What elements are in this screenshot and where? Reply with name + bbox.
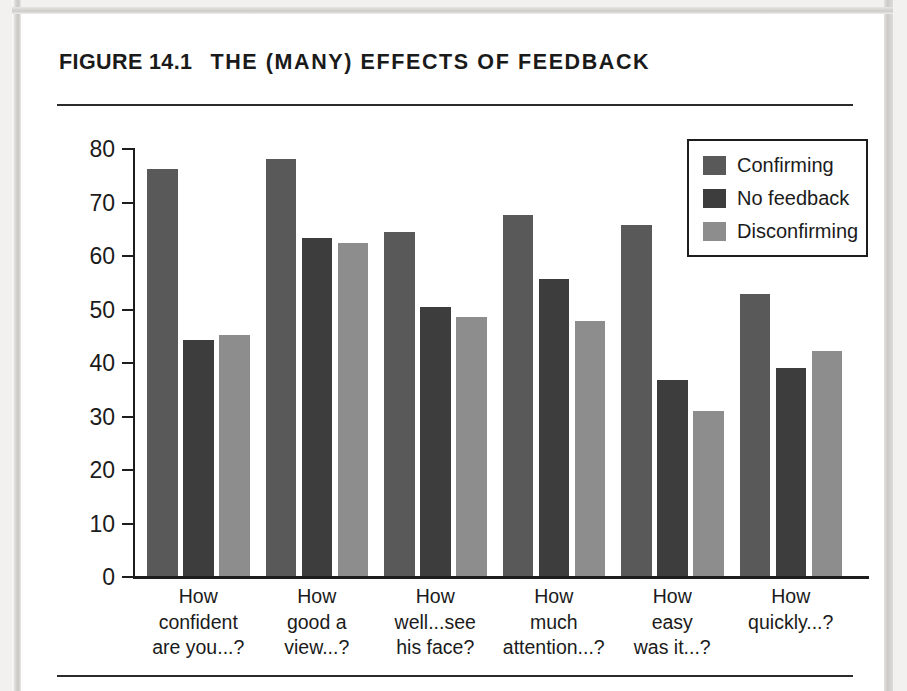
figure-page: FIGURE 14.1THE (MANY) EFFECTS OF FEEDBAC… — [0, 0, 907, 691]
bar[interactable] — [693, 411, 724, 576]
bar-group — [503, 148, 606, 576]
y-tick: 70 — [122, 202, 133, 204]
y-tick: 20 — [122, 469, 133, 471]
y-tick-label: 20 — [89, 457, 115, 484]
bar[interactable] — [503, 215, 534, 576]
y-tick: 60 — [122, 255, 133, 257]
y-tick: 80 — [122, 148, 133, 150]
x-axis-line — [133, 576, 869, 579]
page-frame-left-edge — [12, 0, 21, 691]
y-tick-label: 40 — [89, 350, 115, 377]
legend-item[interactable]: Confirming — [703, 149, 866, 182]
page-frame-right-edge — [884, 0, 893, 691]
bar[interactable] — [657, 380, 688, 576]
title-divider-top — [57, 104, 853, 106]
y-tick: 40 — [122, 362, 133, 364]
bar[interactable] — [539, 279, 570, 576]
bar[interactable] — [812, 351, 843, 576]
bar[interactable] — [420, 307, 451, 576]
bar[interactable] — [740, 294, 771, 576]
y-tick: 10 — [122, 523, 133, 525]
y-tick-label: 60 — [89, 243, 115, 270]
x-axis-label-line: quickly...? — [711, 610, 871, 636]
figure-sheet: FIGURE 14.1THE (MANY) EFFECTS OF FEEDBAC… — [21, 14, 884, 691]
legend-swatch-icon — [703, 222, 726, 241]
bar[interactable] — [384, 232, 415, 576]
y-tick-label: 80 — [89, 136, 115, 163]
bar[interactable] — [147, 169, 178, 576]
bar-group — [384, 148, 487, 576]
x-axis-label: Howquickly...? — [711, 584, 871, 635]
y-tick-label: 0 — [102, 564, 115, 591]
chart-legend: ConfirmingNo feedbackDisconfirming — [687, 139, 868, 257]
legend-label: No feedback — [737, 187, 849, 210]
y-axis-line — [133, 148, 135, 578]
bar[interactable] — [456, 317, 487, 576]
bar[interactable] — [776, 368, 807, 576]
y-tick-label: 10 — [89, 510, 115, 537]
bar-group — [266, 148, 369, 576]
bar[interactable] — [183, 340, 214, 576]
bar[interactable] — [338, 243, 369, 576]
y-tick: 0 — [122, 576, 133, 578]
bar-group — [147, 148, 250, 576]
bar[interactable] — [266, 159, 297, 576]
bar[interactable] — [575, 321, 606, 576]
x-axis-label-line: was it...? — [592, 635, 752, 661]
y-tick-label: 30 — [89, 403, 115, 430]
y-tick: 50 — [122, 309, 133, 311]
figure-number: FIGURE 14.1 — [59, 50, 192, 74]
page-frame-top-edge — [12, 7, 893, 14]
figure-title-text: THE (MANY) EFFECTS OF FEEDBACK — [210, 50, 650, 74]
legend-swatch-icon — [703, 189, 726, 208]
figure-divider-bottom — [57, 675, 853, 677]
legend-item[interactable]: Disconfirming — [703, 215, 866, 248]
legend-label: Confirming — [737, 154, 834, 177]
bar[interactable] — [621, 225, 652, 576]
x-axis-label-line: How — [711, 584, 871, 610]
page-title: FIGURE 14.1THE (MANY) EFFECTS OF FEEDBAC… — [59, 50, 650, 75]
legend-swatch-icon — [703, 156, 726, 175]
legend-item[interactable]: No feedback — [703, 182, 866, 215]
bar[interactable] — [219, 335, 250, 576]
y-tick: 30 — [122, 416, 133, 418]
bar[interactable] — [302, 238, 333, 576]
y-tick-label: 50 — [89, 296, 115, 323]
y-tick-label: 70 — [89, 189, 115, 216]
legend-label: Disconfirming — [737, 220, 858, 243]
